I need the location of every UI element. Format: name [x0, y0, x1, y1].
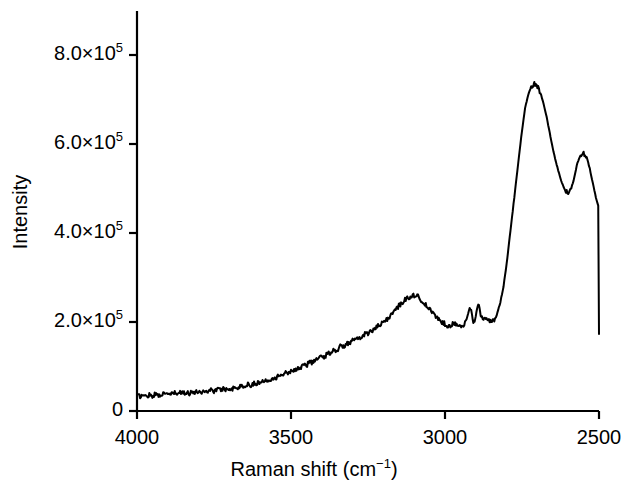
x-tick-label: 3000 — [405, 426, 485, 449]
x-axis-title: Raman shift (cm−1) — [0, 458, 628, 481]
y-tick-label: 6.0×105 — [54, 131, 123, 154]
y-axis-title: Intensity — [9, 175, 31, 249]
y-tick-label: 4.0×105 — [54, 220, 123, 243]
y-axis-ticks — [129, 55, 137, 411]
x-axis-ticks — [137, 411, 599, 419]
x-tick-label: 4000 — [97, 426, 177, 449]
plot-canvas — [0, 0, 628, 491]
raman-spectrum-figure: 02.0×1054.0×1056.0×1058.0×105 4000350030… — [0, 0, 628, 491]
y-axis-title-wrapper: Intensity — [9, 112, 33, 312]
y-tick-label: 0 — [112, 398, 123, 421]
x-tick-label: 3500 — [251, 426, 331, 449]
y-tick-label: 8.0×105 — [54, 42, 123, 65]
x-tick-label: 2500 — [559, 426, 628, 449]
y-tick-label: 2.0×105 — [54, 309, 123, 332]
x-axis-title-exponent: −1 — [376, 456, 391, 471]
x-axis-title-base: Raman shift (cm — [230, 458, 376, 480]
x-axis-title-close: ) — [391, 458, 398, 480]
spectrum-line — [137, 82, 599, 398]
